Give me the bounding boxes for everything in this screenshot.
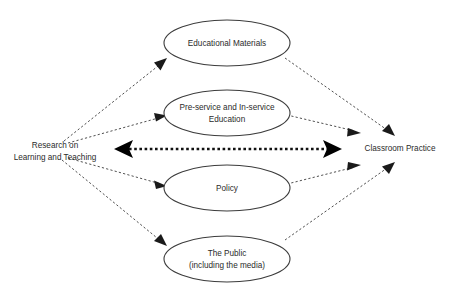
node-educational-materials-label-line1: Educational Materials: [188, 39, 266, 48]
center-bidirectional-arrow: [114, 140, 342, 158]
link-the-public-to-classroom-practice: [285, 162, 395, 240]
node-pre-service-and-in-service-education-label-line1: Pre-service and In-service: [179, 103, 275, 112]
endpoint-classroom-practice-label: Classroom Practice: [365, 144, 436, 153]
endpoint-classroom-practice[interactable]: Classroom Practice: [365, 144, 436, 153]
node-pre-service-and-in-service-education[interactable]: Pre-service and In-service Education: [164, 90, 290, 136]
link-research-to-pre-service-education: [68, 113, 167, 143]
endpoint-research-on-learning-and-teaching[interactable]: Research on Learning and Teaching: [14, 141, 97, 162]
node-policy[interactable]: Policy: [164, 165, 290, 211]
link-educational-materials-to-classroom-practice: [285, 58, 395, 136]
link-policy-to-classroom-practice: [287, 162, 361, 184]
node-the-public[interactable]: The Public (including the media): [164, 236, 290, 282]
node-policy-label-line1: Policy: [216, 184, 239, 193]
node-pre-service-and-in-service-education-shape[interactable]: [164, 90, 290, 136]
node-the-public-label-line1: The Public: [208, 249, 247, 258]
endpoint-research-label-line2: Learning and Teaching: [14, 153, 97, 162]
node-educational-materials[interactable]: Educational Materials: [164, 20, 290, 66]
node-the-public-shape[interactable]: [164, 236, 290, 282]
node-pre-service-and-in-service-education-label-line2: Education: [209, 115, 246, 124]
link-research-to-educational-materials: [64, 58, 167, 141]
diagram-canvas: Educational Materials Pre-service and In…: [0, 0, 458, 294]
link-research-to-the-public: [62, 160, 167, 246]
diagram-svg: Educational Materials Pre-service and In…: [0, 0, 458, 294]
endpoint-research-label-line1: Research on: [32, 141, 79, 150]
link-research-to-policy: [68, 158, 167, 189]
node-the-public-label-line2: (including the media): [189, 261, 265, 270]
link-pre-service-education-to-classroom-practice: [287, 115, 361, 137]
